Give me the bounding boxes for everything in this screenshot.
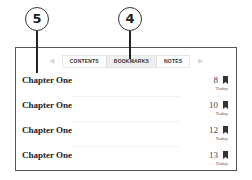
bookmark-item[interactable]: Chapter One 12 Today xyxy=(22,123,230,148)
bookmark-date: Today xyxy=(216,136,228,141)
callout-5-line xyxy=(36,31,38,73)
page-number: 8 xyxy=(214,75,219,85)
divider xyxy=(72,121,180,122)
previous-arrow-icon[interactable]: ◀ xyxy=(42,57,62,65)
chapter-title: Chapter One xyxy=(22,125,72,135)
page-number: 13 xyxy=(209,150,218,160)
callout-5: 5 xyxy=(25,7,49,31)
tab-bar: CONTENTS BOOKMARKS NOTES xyxy=(62,55,190,68)
bookmark-item[interactable]: Chapter One 10 Today xyxy=(22,98,230,123)
callout-4-line xyxy=(129,31,131,59)
bookmark-icon xyxy=(223,151,228,159)
next-arrow-icon[interactable]: ▶ xyxy=(190,57,210,65)
bookmarks-panel: ◀ CONTENTS BOOKMARKS NOTES ▶ Chapter One… xyxy=(15,47,237,171)
bookmark-item[interactable]: Chapter One 8 Today xyxy=(22,73,230,98)
bookmark-date: Today xyxy=(216,86,228,91)
bookmark-list: Chapter One 8 Today Chapter One 10 Today… xyxy=(22,73,230,173)
chapter-title: Chapter One xyxy=(22,150,72,160)
bookmark-date: Today xyxy=(216,161,228,166)
tab-contents[interactable]: CONTENTS xyxy=(63,56,106,67)
tab-notes[interactable]: NOTES xyxy=(157,56,189,67)
callout-4: 4 xyxy=(118,7,142,31)
divider xyxy=(72,146,180,147)
chapter-title: Chapter One xyxy=(22,100,72,110)
bookmark-icon xyxy=(223,126,228,134)
divider xyxy=(72,96,180,97)
bookmark-item[interactable]: Chapter One 13 Today xyxy=(22,148,230,173)
page-number: 12 xyxy=(209,125,218,135)
page-number: 10 xyxy=(209,100,218,110)
bookmark-icon xyxy=(223,101,228,109)
chapter-title: Chapter One xyxy=(22,75,72,85)
bookmark-icon xyxy=(223,76,228,84)
tab-bookmarks[interactable]: BOOKMARKS xyxy=(106,56,157,67)
tab-navigation: ◀ CONTENTS BOOKMARKS NOTES ▶ xyxy=(16,54,236,68)
bookmark-date: Today xyxy=(216,111,228,116)
